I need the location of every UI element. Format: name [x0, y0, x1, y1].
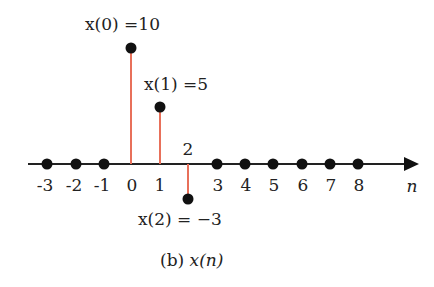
- axis-arrow-icon: [404, 157, 419, 171]
- tick-label: 2: [183, 139, 194, 159]
- tick-label: -2: [66, 175, 83, 195]
- annotation-x2: x(2) = −3: [138, 209, 222, 229]
- marker-n-2: [71, 159, 82, 170]
- tick-label: 7: [326, 175, 337, 195]
- figure-caption: (b) x(n): [160, 250, 223, 270]
- caption-prefix: (b): [160, 250, 190, 270]
- tick-label: 4: [241, 175, 252, 195]
- tick-labels: -3 -2 -1 0 1 2 3 4 5 6 7 8: [37, 139, 365, 195]
- axis-label-n: n: [407, 176, 418, 196]
- marker-n5: [268, 159, 279, 170]
- marker-n8: [353, 159, 364, 170]
- tick-label: 1: [155, 175, 166, 195]
- marker-n7: [325, 159, 336, 170]
- marker-n2: [183, 194, 194, 205]
- marker-n6: [297, 159, 308, 170]
- marker-n0: [126, 43, 137, 54]
- tick-label: -3: [37, 175, 54, 195]
- marker-n1: [155, 102, 166, 113]
- tick-label: -1: [94, 175, 111, 195]
- tick-label: 8: [354, 175, 365, 195]
- stem-plot: -3 -2 -1 0 1 2 3 4 5 6 7 8 n x(0) =10 x(…: [0, 0, 434, 287]
- tick-label: 0: [127, 175, 138, 195]
- marker-n4: [240, 159, 251, 170]
- tick-label: 3: [213, 175, 224, 195]
- marker-n-3: [42, 159, 53, 170]
- marker-n-1: [99, 159, 110, 170]
- annotation-x1: x(1) =5: [144, 74, 208, 94]
- tick-label: 6: [298, 175, 309, 195]
- annotation-x0: x(0) =10: [85, 14, 160, 34]
- markers: [42, 43, 364, 205]
- tick-label: 5: [269, 175, 280, 195]
- marker-n3: [212, 159, 223, 170]
- caption-variable: x(n): [190, 250, 224, 270]
